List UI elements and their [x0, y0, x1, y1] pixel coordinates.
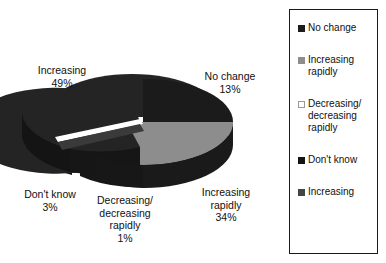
legend-item-decreasing[interactable]: Decreasing/ decreasing rapidly — [290, 98, 377, 134]
slice-label-increasing: Increasing 49% — [16, 64, 108, 89]
legend-label-decreasing: Decreasing/ decreasing rapidly — [308, 98, 372, 134]
slice-label-decreasing-line1: Decreasing/ — [97, 194, 153, 206]
chart-legend: No change Increasing rapidly Decreasing/… — [289, 9, 378, 254]
slice-label-no-change-pct: 13% — [182, 83, 278, 96]
slice-label-decreasing-pct: 1% — [78, 232, 172, 245]
slice-label-increasing-name: Increasing — [38, 64, 86, 76]
slice-label-increasing-rapidly: Increasing rapidly 34% — [178, 186, 274, 224]
slice-label-increasing-pct: 49% — [16, 77, 108, 90]
legend-label-increasing: Increasing — [308, 186, 354, 198]
legend-label-no-change: No change — [308, 22, 356, 34]
legend-label-dont-know: Don't know — [308, 154, 357, 166]
pie-chart-graphic: Increasing 49% No change 13% Increasing … — [0, 0, 286, 263]
slice-label-increasing-rapidly-line2: rapidly — [178, 199, 274, 212]
legend-item-no-change[interactable]: No change — [290, 22, 377, 34]
slice-label-decreasing: Decreasing/ decreasing rapidly 1% — [78, 194, 172, 244]
slice-label-no-change: No change 13% — [182, 70, 278, 95]
slice-label-increasing-rapidly-pct: 34% — [178, 211, 274, 224]
legend-swatch-decreasing-icon — [298, 101, 305, 108]
slice-label-increasing-rapidly-line1: Increasing — [202, 186, 250, 198]
legend-item-increasing[interactable]: Increasing — [290, 186, 377, 198]
legend-item-increasing-rapidly[interactable]: Increasing rapidly — [290, 54, 377, 78]
pie-chart-figure: Increasing 49% No change 13% Increasing … — [0, 0, 386, 263]
slice-label-decreasing-line2: decreasing — [78, 207, 172, 220]
legend-swatch-increasing-icon — [298, 189, 305, 196]
legend-swatch-increasing-rapidly-icon — [298, 57, 305, 64]
slice-label-dont-know-name: Don't know — [24, 188, 76, 200]
legend-item-dont-know[interactable]: Don't know — [290, 154, 377, 166]
legend-swatch-dont-know-icon — [298, 157, 305, 164]
slice-label-decreasing-line3: rapidly — [78, 219, 172, 232]
legend-swatch-no-change-icon — [298, 25, 305, 32]
legend-label-increasing-rapidly: Increasing rapidly — [308, 54, 372, 78]
slice-label-no-change-name: No change — [205, 70, 256, 82]
